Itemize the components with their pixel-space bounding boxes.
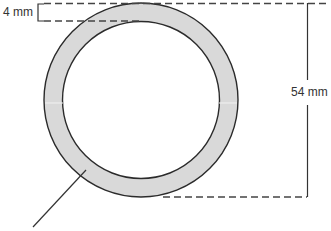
ring-diagram bbox=[0, 0, 331, 231]
pointer-arrow bbox=[33, 170, 86, 227]
ring-band bbox=[44, 3, 238, 197]
diameter-label: 54 mm bbox=[290, 85, 329, 99]
thickness-label: 4 mm bbox=[3, 5, 33, 19]
thickness-bracket bbox=[38, 4, 44, 21]
ring-inner-edge bbox=[63, 22, 220, 179]
